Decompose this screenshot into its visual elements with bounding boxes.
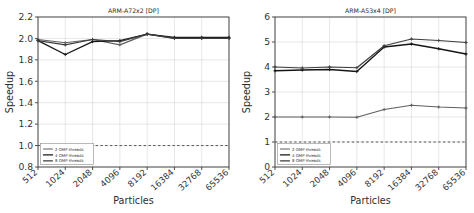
y-tick-label: 1.2 xyxy=(18,118,33,129)
legend-label: 8 OMP threads xyxy=(292,158,321,163)
x-tick-label: 2048 xyxy=(308,167,331,189)
x-tick-label: 32768 xyxy=(413,167,440,193)
legend-label: 4 OMP threads xyxy=(55,153,84,158)
chart-title: ARM-A72x2 [DP] xyxy=(108,7,159,14)
chart-svg-left: ARM-A72x2 [DP]0.81.01.21.41.61.82.02.251… xyxy=(0,0,237,213)
x-axis-title: Particles xyxy=(350,195,390,206)
y-tick-label: 1.8 xyxy=(18,54,33,65)
y-tick-label: 1.6 xyxy=(18,76,33,87)
y-axis-title: Speedup xyxy=(4,71,15,113)
y-tick-label: 2.0 xyxy=(18,33,33,44)
legend-label: 2 OMP threads xyxy=(292,147,321,152)
y-tick-label: 5 xyxy=(264,36,270,47)
legend-label: 4 OMP threads xyxy=(292,153,321,158)
x-tick-label: 4096 xyxy=(335,167,358,189)
y-tick-label: 1 xyxy=(264,136,270,147)
x-tick-label: 8192 xyxy=(363,167,386,189)
chart-svg-right: ARM-A53x4 [DP]01234565121024204840968192… xyxy=(237,0,474,213)
y-tick-label: 1.4 xyxy=(18,97,33,108)
series-line-8-threads xyxy=(275,39,466,68)
chart-panel-left: ARM-A72x2 [DP]0.81.01.21.41.61.82.02.251… xyxy=(0,0,237,213)
chart-legend: 2 OMP threads4 OMP threads8 OMP threads xyxy=(41,144,94,165)
x-tick-label: 2048 xyxy=(71,167,94,189)
x-tick-label: 512 xyxy=(257,167,276,185)
x-tick-label: 16384 xyxy=(149,167,176,193)
y-tick-label: 2.2 xyxy=(18,11,33,22)
x-tick-label: 16384 xyxy=(386,167,413,193)
y-axis-title: Speedup xyxy=(241,71,252,113)
y-tick-label: 6 xyxy=(264,11,270,22)
legend-label: 2 OMP threads xyxy=(55,147,84,152)
x-tick-label: 65536 xyxy=(440,167,467,193)
y-tick-label: 1.0 xyxy=(18,140,33,151)
chart-legend: 2 OMP threads4 OMP threads8 OMP threads xyxy=(278,144,331,165)
x-axis-title: Particles xyxy=(113,195,153,206)
figure-root: ARM-A72x2 [DP]0.81.01.21.41.61.82.02.251… xyxy=(0,0,474,213)
x-tick-label: 65536 xyxy=(203,167,230,193)
x-tick-label: 8192 xyxy=(126,167,149,189)
legend-label: 8 OMP threads xyxy=(55,158,84,163)
chart-panel-right: ARM-A53x4 [DP]01234565121024204840968192… xyxy=(237,0,474,213)
y-tick-label: 2 xyxy=(264,111,270,122)
x-tick-label: 1024 xyxy=(281,167,304,189)
chart-title: ARM-A53x4 [DP] xyxy=(345,7,396,14)
x-tick-label: 4096 xyxy=(98,167,121,189)
x-tick-label: 1024 xyxy=(44,167,67,189)
y-tick-label: 4 xyxy=(264,61,270,72)
x-tick-label: 32768 xyxy=(176,167,203,193)
y-tick-label: 3 xyxy=(264,86,270,97)
series-line-2-threads xyxy=(38,34,229,45)
